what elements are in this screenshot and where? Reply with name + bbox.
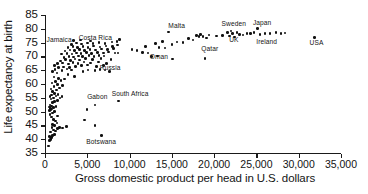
data-point	[131, 48, 134, 51]
y-tick-label: 50	[14, 106, 38, 118]
data-point	[202, 35, 205, 38]
data-point	[95, 65, 98, 68]
data-point	[264, 32, 267, 35]
data-point	[78, 59, 81, 62]
data-point	[61, 62, 64, 65]
data-point	[80, 64, 83, 67]
point-label: Jamaica	[47, 37, 72, 44]
point-label: Malta	[168, 23, 185, 30]
y-tick-label: 60	[14, 78, 38, 90]
data-point	[53, 76, 56, 79]
data-point	[77, 62, 80, 65]
data-point	[49, 131, 52, 134]
data-point	[94, 124, 97, 127]
y-tick-label: 75	[14, 37, 38, 49]
y-tick-label: 45	[14, 119, 38, 131]
data-point	[58, 126, 61, 129]
data-point	[83, 119, 86, 122]
data-point	[74, 58, 77, 61]
data-point	[61, 69, 64, 72]
point-label: South Africa	[112, 91, 149, 98]
data-point	[55, 105, 58, 108]
data-point	[158, 46, 161, 49]
data-point	[57, 77, 60, 80]
data-point	[171, 58, 174, 61]
data-point	[56, 115, 59, 118]
data-point	[70, 69, 73, 72]
data-point	[100, 57, 103, 60]
data-point	[52, 118, 55, 121]
data-point	[90, 52, 93, 55]
data-point	[61, 127, 64, 130]
data-point	[56, 72, 59, 75]
data-point	[100, 134, 103, 137]
data-point	[89, 62, 92, 65]
data-point	[226, 31, 229, 34]
data-point	[103, 55, 106, 58]
point-label: Sweden	[222, 21, 246, 28]
x-tick-label: 35,000	[316, 159, 366, 170]
data-point	[117, 52, 120, 55]
data-point	[61, 84, 64, 87]
data-point	[249, 32, 252, 35]
data-point	[61, 95, 64, 98]
data-point	[52, 129, 55, 132]
data-point	[52, 97, 55, 100]
point-label: Oman	[150, 54, 168, 61]
data-point	[48, 135, 51, 138]
data-point	[63, 56, 66, 59]
data-point	[167, 31, 170, 34]
data-point	[73, 75, 76, 78]
data-point	[67, 73, 70, 76]
scatter-chart-figure: Life expectancy at birth Gross domestic …	[0, 0, 368, 194]
data-point	[53, 110, 56, 113]
data-point	[51, 123, 54, 126]
data-point	[53, 133, 56, 136]
data-point	[74, 65, 77, 68]
y-tick-label: 55	[14, 92, 38, 104]
data-point	[106, 48, 109, 51]
data-point	[69, 49, 72, 52]
plot-area: JamaicaCosta RicaRussiaGabonSouth Africa…	[45, 15, 341, 153]
data-point	[54, 68, 57, 71]
y-tick-label: 70	[14, 50, 38, 62]
data-point	[171, 43, 174, 46]
data-point	[72, 61, 75, 64]
point-label: Botswana	[86, 139, 116, 146]
data-point	[91, 58, 94, 61]
data-point	[60, 53, 63, 56]
data-point	[136, 49, 139, 52]
data-point	[71, 53, 74, 56]
data-point	[65, 125, 68, 128]
point-label: Costa Rica	[79, 35, 112, 42]
data-point	[205, 37, 208, 40]
point-label: Gabon	[87, 94, 107, 101]
data-point	[231, 32, 234, 35]
data-point	[182, 41, 185, 44]
data-point	[72, 45, 75, 48]
data-point	[96, 51, 99, 54]
data-point	[67, 63, 70, 66]
x-axis-line	[45, 153, 341, 154]
data-point	[83, 49, 86, 52]
data-point	[259, 33, 262, 36]
data-point	[59, 60, 62, 63]
data-point	[51, 90, 54, 93]
data-point	[102, 52, 105, 55]
data-point	[87, 69, 90, 72]
data-point	[280, 32, 283, 35]
data-point	[221, 34, 224, 37]
data-point	[55, 89, 58, 92]
data-point	[161, 40, 164, 43]
data-point	[86, 108, 89, 111]
data-point	[100, 48, 103, 51]
data-point	[81, 55, 84, 58]
data-point	[54, 80, 57, 83]
point-label: UK	[229, 37, 238, 44]
data-point	[83, 61, 86, 64]
data-point	[76, 46, 79, 49]
data-point	[56, 99, 59, 102]
data-point	[192, 39, 195, 42]
data-point	[141, 51, 144, 54]
data-point	[253, 31, 256, 34]
